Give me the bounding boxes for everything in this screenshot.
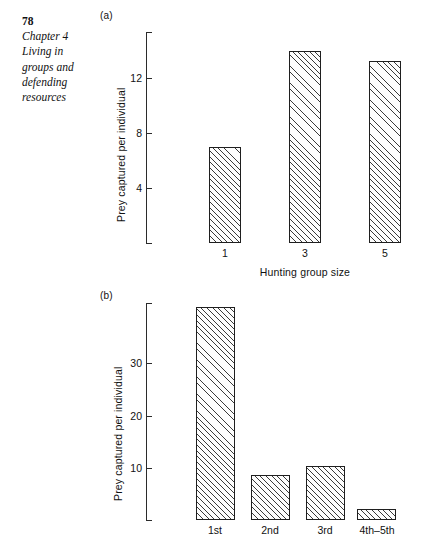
panel-a-x-axis-title: Hunting group size [205, 266, 405, 278]
panel-b-ytick-30 [146, 363, 152, 364]
panel-b-y-axis [146, 303, 147, 521]
panel-b-xticklabel-4th-5th: 4th–5th [359, 524, 394, 536]
panel-a-y-axis [146, 32, 147, 244]
panel-a-ytick-4 [146, 188, 152, 189]
panel-a-bar-1 [209, 147, 241, 243]
figure-panel-a: (a) 12 8 4 Prey captured per individual … [0, 0, 423, 272]
panel-b-xticklabel-3rd: 3rd [317, 524, 332, 536]
panel-b-bar-1st [196, 307, 235, 520]
panel-a-yticklabel-12: 12 [122, 72, 142, 84]
panel-b-ytick-20 [146, 416, 152, 417]
panel-b-ytick-10 [146, 468, 152, 469]
panel-b-bar-3rd [306, 466, 345, 520]
panel-b-xticklabel-1st: 1st [208, 524, 222, 536]
panel-a-ytick-12 [146, 78, 152, 79]
panel-b-xticklabel-2nd: 2nd [261, 524, 279, 536]
panel-b-bar-4th-5th [357, 509, 396, 520]
panel-a-bar-5 [369, 61, 401, 243]
panel-a-y-axis-title: Prey captured per individual [115, 88, 127, 222]
panel-b-y-axis-title: Prey captured per individual [112, 367, 124, 501]
figure-panel-b: (b) 30 20 10 Prey captured per individua… [0, 285, 423, 536]
panel-a-letter: (a) [100, 10, 113, 21]
panel-a-xticklabel-1: 1 [222, 247, 228, 259]
panel-a-xticklabel-5: 5 [382, 247, 388, 259]
panel-a-bar-3 [289, 51, 321, 243]
panel-b-bar-2nd [251, 475, 290, 520]
panel-a-ytick-8 [146, 133, 152, 134]
panel-b-letter: (b) [100, 290, 113, 301]
panel-a-xticklabel-3: 3 [302, 247, 308, 259]
